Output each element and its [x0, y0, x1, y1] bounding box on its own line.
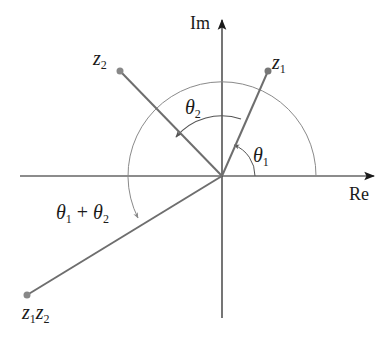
real-axis-label: Re — [349, 185, 369, 203]
imag-axis-label: Im — [190, 14, 210, 32]
label-theta-sum: θ1 + θ2 — [56, 202, 109, 222]
label-z2: z2 — [93, 48, 107, 68]
diagram-canvas — [0, 0, 389, 339]
label-theta1: θ1 — [253, 145, 269, 165]
complex-plane-diagram: Im Re z2 z1 z1z2 θ2 θ1 θ1 + θ2 — [0, 0, 389, 339]
vector-z2 — [120, 71, 222, 176]
label-z1z2: z1z2 — [22, 302, 50, 322]
angle-arc-theta1 — [234, 145, 255, 176]
point-z1z2 — [24, 292, 31, 299]
label-theta2: θ2 — [185, 97, 201, 117]
label-z1: z1 — [272, 52, 286, 72]
point-z1 — [265, 68, 272, 75]
angle-arc-theta2 — [176, 116, 241, 137]
point-z2 — [117, 68, 124, 75]
vector-z1z2 — [27, 176, 222, 295]
